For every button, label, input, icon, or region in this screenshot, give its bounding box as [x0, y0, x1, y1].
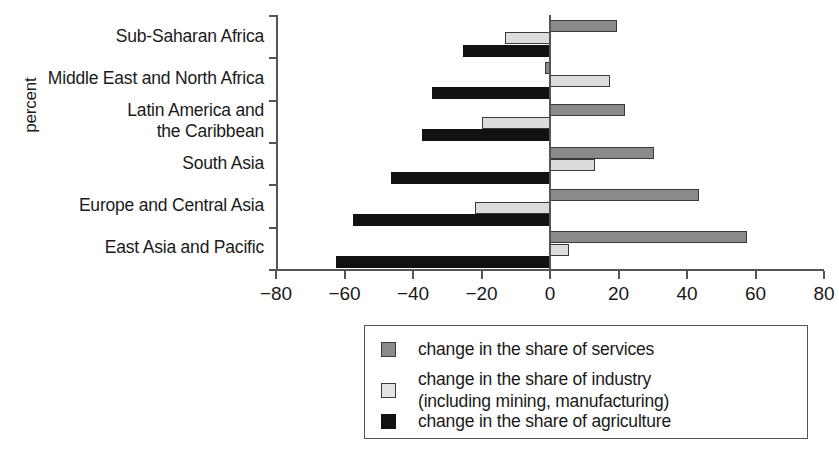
- bar-industry: [505, 32, 550, 44]
- x-tick-label: −40: [383, 283, 443, 305]
- bar-agriculture: [353, 214, 550, 226]
- x-tick: [275, 271, 277, 279]
- x-tick-label: 40: [657, 283, 717, 305]
- category-label: Europe and Central Asia: [79, 195, 264, 216]
- x-tick-label: −20: [452, 283, 512, 305]
- zero-line: [549, 15, 551, 269]
- x-tick-label: −80: [246, 283, 306, 305]
- bar-services: [550, 189, 699, 201]
- legend-item[interactable]: change in the share of agriculture: [381, 410, 671, 432]
- legend-swatch-services-icon: [381, 342, 396, 357]
- legend-swatch-agriculture-icon: [381, 414, 396, 429]
- x-tick: [549, 271, 551, 279]
- bar-agriculture: [422, 129, 550, 141]
- x-tick: [686, 271, 688, 279]
- category-label: Sub-Saharan Africa: [116, 26, 264, 47]
- x-tick: [481, 271, 483, 279]
- legend-item[interactable]: change in the share of services: [381, 338, 654, 360]
- category-label: South Asia: [182, 153, 264, 174]
- bar-agriculture: [391, 172, 550, 184]
- bar-services: [550, 20, 617, 32]
- x-tick-label: −60: [315, 283, 375, 305]
- y-tick: [269, 15, 277, 17]
- x-tick-label: 0: [520, 283, 580, 305]
- y-axis-title: percent: [21, 50, 41, 160]
- plot-area: −80−60−40−20020406080: [276, 15, 824, 269]
- bar-agriculture: [336, 256, 550, 268]
- legend: change in the share of serviceschange in…: [364, 325, 808, 439]
- bar-industry: [482, 117, 551, 129]
- x-tick-label: 20: [589, 283, 649, 305]
- x-tick: [344, 271, 346, 279]
- x-tick: [412, 271, 414, 279]
- x-tick-label: 80: [794, 283, 839, 305]
- y-tick: [269, 227, 277, 229]
- legend-label: change in the share of services: [418, 338, 654, 360]
- bar-industry: [550, 75, 610, 87]
- bar-services: [550, 231, 747, 243]
- bar-agriculture: [463, 45, 550, 57]
- y-tick: [269, 184, 277, 186]
- legend-label: change in the share of agriculture: [418, 410, 671, 432]
- category-label: Latin America and the Caribbean: [127, 100, 264, 142]
- bar-services: [550, 104, 625, 116]
- y-tick: [269, 57, 277, 59]
- legend-item[interactable]: change in the share of industry (includi…: [381, 368, 669, 412]
- category-label: East Asia and Pacific: [105, 237, 264, 258]
- bar-industry: [550, 244, 569, 256]
- y-tick: [269, 142, 277, 144]
- bar-agriculture: [432, 87, 550, 99]
- category-label: Middle East and North Africa: [48, 68, 264, 89]
- bar-services: [550, 147, 654, 159]
- x-tick: [755, 271, 757, 279]
- x-tick: [823, 271, 825, 279]
- bar-industry: [550, 159, 595, 171]
- legend-swatch-industry-icon: [381, 383, 396, 398]
- legend-label: change in the share of industry (includi…: [418, 368, 669, 412]
- y-tick: [269, 100, 277, 102]
- x-tick-label: 60: [726, 283, 786, 305]
- bar-industry: [475, 202, 550, 214]
- x-tick: [618, 271, 620, 279]
